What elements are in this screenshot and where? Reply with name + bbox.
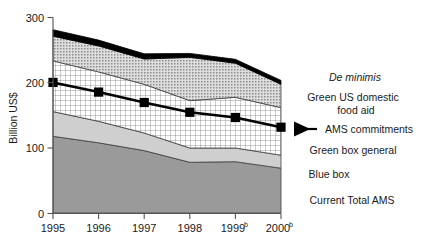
x-tick-label-1995: 1995 — [41, 222, 65, 234]
legend-label-de-minimis: De minimis — [329, 71, 382, 83]
legend-label-blue-box: Blue box — [309, 168, 351, 180]
legend-label-green-box-general: Green box general — [310, 144, 397, 156]
legend-label-food-aid-line1: Green US domestic — [307, 91, 399, 103]
x-tick-sup-1999: b — [244, 221, 248, 228]
plot-area — [53, 30, 281, 213]
legend-label-current-total-ams: Current Total AMS — [309, 194, 394, 206]
chart-root: 300 200 100 0 Billion US$ 1995 1996 1997… — [0, 0, 426, 249]
y-tick-label-300: 300 — [26, 12, 44, 24]
ams-marker — [231, 113, 240, 122]
x-tick-label-2000: 2000 — [266, 222, 290, 234]
ams-marker — [185, 108, 194, 117]
y-tick-label-200: 200 — [26, 77, 44, 89]
ams-marker — [276, 123, 285, 132]
x-tick-sup-2000: b — [289, 221, 293, 228]
y-axis-title: Billion US$ — [7, 92, 19, 144]
x-tick-label-1999: 1999 — [221, 222, 245, 234]
y-tick-label-0: 0 — [38, 208, 44, 220]
legend-label-food-aid-line2: food aid — [337, 104, 375, 116]
stacked-area-chart: 300 200 100 0 Billion US$ 1995 1996 1997… — [0, 0, 426, 249]
x-tick-label-1997: 1997 — [132, 222, 156, 234]
x-tick-label-1998: 1998 — [178, 222, 202, 234]
y-tick-label-100: 100 — [26, 142, 44, 154]
ams-marker — [140, 98, 149, 107]
x-tick-label-1996: 1996 — [86, 222, 110, 234]
ams-marker — [94, 88, 103, 97]
legend-label-ams-commitments: AMS commitments — [325, 123, 413, 135]
